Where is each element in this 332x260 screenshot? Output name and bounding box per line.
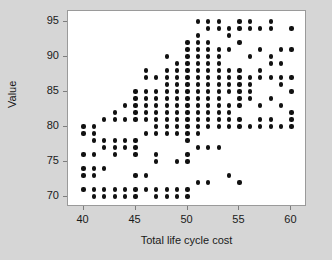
x-tick-mark xyxy=(238,206,239,210)
x-tick-mark xyxy=(290,206,291,210)
x-tick-mark xyxy=(83,206,84,210)
x-tick-label: 60 xyxy=(270,214,310,225)
x-tick-label: 40 xyxy=(63,214,103,225)
x-tick-label: 50 xyxy=(167,214,207,225)
x-axis-ticks: 4045505560 xyxy=(0,0,332,260)
x-tick-label: 45 xyxy=(115,214,155,225)
scatter-plot-figure: Value 707580859095 4045505560 Total life… xyxy=(0,0,332,260)
x-tick-label: 55 xyxy=(218,214,258,225)
x-tick-mark xyxy=(135,206,136,210)
x-axis-title: Total life cycle cost xyxy=(67,234,306,246)
x-tick-mark xyxy=(187,206,188,210)
